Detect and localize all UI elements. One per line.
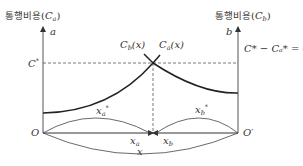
cstar-label: C* xyxy=(28,57,40,69)
cb-curve-label: Cb(x) xyxy=(120,39,145,52)
x-total-label: x xyxy=(137,146,143,157)
origin-left-label: O xyxy=(31,127,39,138)
traffic-cost-diagram: 통행비용(Ca) a C* 통행비용(Cb) b C* − Cₐ* = C Cb… xyxy=(0,0,303,166)
ca-curve-label: Ca(x) xyxy=(159,39,184,52)
xb-label: xb xyxy=(163,135,173,148)
xa-star-arc xyxy=(43,118,150,133)
right-axis-title: 통행비용(Cb) xyxy=(215,10,271,23)
origin-right-label: O′ xyxy=(243,127,254,138)
xa-star-label: xa* xyxy=(96,104,110,118)
xb-star-arc xyxy=(156,118,238,133)
left-axis-top-label: a xyxy=(50,26,56,37)
xb-star-label: xb* xyxy=(195,103,209,117)
left-axis-title: 통행비용(Ca) xyxy=(5,10,60,23)
right-axis-top-label: b xyxy=(226,26,232,37)
equation-label: C* − Cₐ* = C xyxy=(244,43,303,54)
cost-curve-cb xyxy=(144,54,238,93)
